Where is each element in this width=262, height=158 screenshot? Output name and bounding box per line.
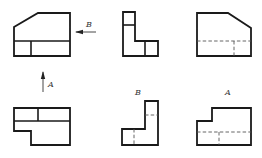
bottom-view: [14, 108, 70, 145]
view-a: A: [197, 88, 251, 145]
main-view-outline: [14, 13, 70, 56]
view-b-label: B: [134, 88, 141, 97]
arrow-b: B: [76, 20, 96, 32]
view-b-outline: [122, 101, 158, 145]
projection-diagram: B A B A: [0, 0, 262, 158]
view-b: B: [122, 88, 158, 145]
bottom-view-outline: [14, 108, 70, 145]
arrow-a: A: [43, 72, 54, 92]
view-a-outline: [197, 108, 251, 145]
arrow-a-label: A: [47, 80, 54, 89]
left-view: [123, 12, 158, 56]
arrow-b-label: B: [85, 20, 92, 29]
top-right-view: [197, 13, 251, 56]
view-a-label: A: [224, 88, 231, 97]
left-view-outline: [123, 12, 158, 56]
main-view: [14, 13, 70, 56]
top-right-view-outline: [197, 13, 251, 56]
